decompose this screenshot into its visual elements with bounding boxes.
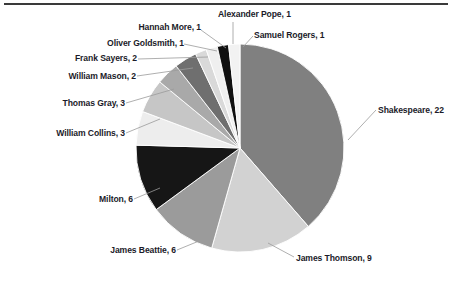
leader-line-james-thomson (268, 243, 294, 257)
slice-label-james-beattie: James Beattie, 6 (0, 245, 176, 255)
slice-label-milton: Milton, 6 (0, 194, 133, 204)
slice-label-alexander-pope: Alexander Pope, 1 (218, 9, 291, 19)
slice-label-hannah-more: Hannah More, 1 (0, 22, 201, 32)
slice-label-william-mason: William Mason, 2 (0, 71, 136, 81)
pie-slices-group (136, 44, 344, 252)
slice-label-shakespeare: Shakespeare, 22 (378, 105, 444, 115)
slice-label-frank-sayers: Frank Sayers, 2 (0, 53, 137, 63)
leader-line-shakespeare (348, 110, 376, 140)
leader-line-hannah-more (201, 30, 226, 48)
slice-label-samuel-rogers: Samuel Rogers, 1 (254, 30, 325, 40)
slice-label-thomas-gray: Thomas Gray, 3 (0, 98, 125, 108)
slice-label-william-collins: William Collins, 3 (0, 128, 125, 138)
leader-line-james-beattie (177, 241, 199, 250)
slice-label-james-thomson: James Thomson, 9 (296, 253, 372, 263)
pie-chart-page: Alexander Pope, 1 Hannah More, 1 Samuel … (0, 0, 452, 282)
slice-label-oliver-goldsmith: Oliver Goldsmith, 1 (0, 38, 184, 48)
